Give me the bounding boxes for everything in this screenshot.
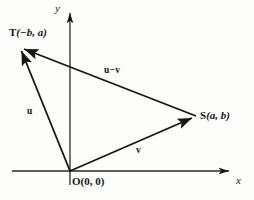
vector-diagram-figure: y x T(−b, a) S(a, b) O(0, 0) u v u−v	[0, 0, 254, 200]
vector-label-u-minus-v: u−v	[104, 66, 120, 76]
axes-group	[12, 13, 229, 185]
vector-label-v-term: v	[115, 65, 120, 75]
point-coords-T: (−b, a)	[16, 26, 47, 38]
vector-v-line	[70, 118, 192, 171]
point-label-T: T(−b, a)	[9, 27, 47, 38]
point-label-O: O(0, 0)	[72, 176, 104, 187]
vector-label-u: u	[27, 107, 33, 117]
y-axis-label: y	[55, 3, 60, 14]
point-name-O: O	[72, 175, 81, 187]
x-axis-label: x	[236, 175, 241, 186]
point-coords-S: (a, b)	[206, 109, 230, 121]
vector-label-v: v	[136, 146, 141, 156]
vector-u-minus-v-line	[24, 49, 196, 116]
point-label-S: S(a, b)	[200, 110, 230, 121]
point-coords-O: (0, 0)	[81, 175, 105, 187]
